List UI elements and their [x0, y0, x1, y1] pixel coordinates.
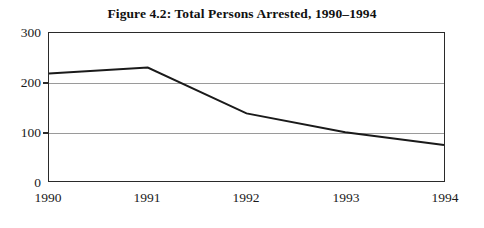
- y-axis-label-0: 0: [34, 175, 41, 191]
- x-axis-label-1993: 1993: [333, 190, 360, 206]
- chart-title: Figure 4.2: Total Persons Arrested, 1990…: [0, 6, 484, 22]
- x-axis-label-1994: 1994: [432, 190, 459, 206]
- y-axis-label-100: 100: [21, 125, 41, 141]
- x-axis-label-1992: 1992: [233, 190, 260, 206]
- series-polyline: [49, 68, 444, 145]
- x-axis-label-1991: 1991: [134, 190, 161, 206]
- plot-area: [48, 32, 445, 182]
- y-axis-label-200: 200: [21, 75, 41, 91]
- x-axis-label-1990: 1990: [35, 190, 62, 206]
- y-axis-label-300: 300: [21, 25, 41, 41]
- figure-container: Figure 4.2: Total Persons Arrested, 1990…: [0, 0, 484, 228]
- series-line-total-persons-arrested: [49, 33, 444, 181]
- plot-inner: [49, 33, 444, 181]
